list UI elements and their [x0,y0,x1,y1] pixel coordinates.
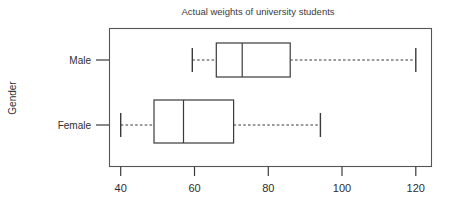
x-tick-label-100: 100 [333,182,351,194]
x-tick-label-60: 60 [188,182,200,194]
x-tick-label-40: 40 [115,182,127,194]
boxplot-figure: Actual weights of university students Ge… [0,0,452,209]
y-tick-label-female: Female [58,120,92,131]
x-tick-label-120: 120 [407,182,425,194]
male-box [216,43,290,77]
chart-title: Actual weights of university students [181,6,334,17]
y-axis-title: Gender [7,81,18,115]
y-tick-label-male: Male [69,55,91,66]
x-tick-label-80: 80 [262,182,274,194]
chart-screenshot: Actual weights of university students Ge… [0,0,452,209]
female-box [154,100,234,143]
